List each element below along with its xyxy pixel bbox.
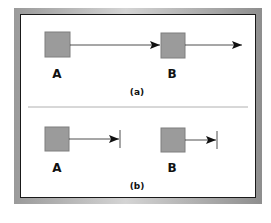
node-b-label: B: [167, 67, 176, 81]
node-b-label: B: [167, 161, 176, 175]
node-b-square: [161, 33, 185, 58]
panel-b: A B (b): [45, 127, 217, 191]
node-a-square: [45, 127, 69, 151]
node-a-label: A: [52, 67, 62, 81]
node-a-label: A: [52, 161, 62, 175]
node-b-square: [161, 128, 185, 152]
diagram-canvas: A B (a) A B (b): [0, 0, 271, 223]
panel-a: A B (a): [45, 32, 242, 97]
panel-b-caption: (b): [130, 181, 145, 191]
panel-a-caption: (a): [130, 87, 144, 97]
node-a-square: [45, 32, 70, 57]
